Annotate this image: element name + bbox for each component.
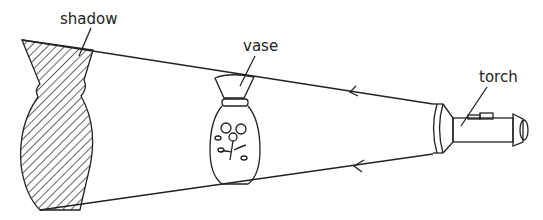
shadow-diagram: shadow vase torch [0,0,543,220]
torch-leader-line [461,87,487,126]
shadow-shape [21,40,93,210]
lower-ray-arrow [354,160,364,172]
torch-label: torch [479,68,518,86]
vase-label: vase [243,37,278,55]
torch [433,104,528,153]
vase [210,75,260,184]
upper-ray-arrow [350,86,358,96]
lower-light-ray [40,154,433,210]
vase-leader-line [240,56,255,86]
shadow-label: shadow [60,10,117,28]
